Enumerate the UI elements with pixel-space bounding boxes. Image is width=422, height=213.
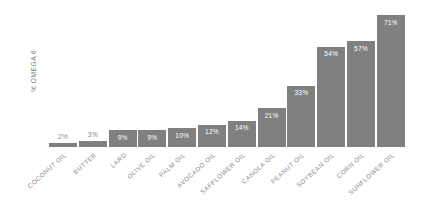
- omega6-bar-chart: % OMEGA 6 2%3%9%9%10%12%14%21%33%54%57%7…: [0, 0, 422, 213]
- x-axis-label-slot: LARD: [109, 149, 137, 213]
- bar-slot: 9%: [109, 8, 137, 147]
- bar-value-label: 33%: [287, 90, 315, 97]
- bar-slot: 71%: [377, 8, 405, 147]
- x-axis-category-labels: COCONUT OILBUTTERLARDOLIVE OILPALM OILAV…: [49, 149, 407, 213]
- bar-value-label: 71%: [377, 20, 405, 27]
- bar-value-label: 2%: [49, 134, 77, 141]
- bar[interactable]: [377, 15, 405, 147]
- x-axis-label-slot: COCONUT OIL: [49, 149, 77, 213]
- bar-value-label: 54%: [317, 51, 345, 58]
- x-axis-label-slot: BUTTER: [79, 149, 107, 213]
- bar-slot: 12%: [198, 8, 226, 147]
- x-axis-label-slot: SUNFLOWER OIL: [377, 149, 405, 213]
- y-axis-title: % OMEGA 6: [30, 48, 44, 92]
- x-axis-label-slot: OLIVE OIL: [138, 149, 166, 213]
- bar-slot: 2%: [49, 8, 77, 147]
- x-axis-label-slot: SOYBEAN OIL: [317, 149, 345, 213]
- bar-slot: 10%: [168, 8, 196, 147]
- plot-area: 2%3%9%9%10%12%14%21%33%54%57%71%: [49, 8, 407, 147]
- bar-slot: 9%: [138, 8, 166, 147]
- bar-value-label: 57%: [347, 46, 375, 53]
